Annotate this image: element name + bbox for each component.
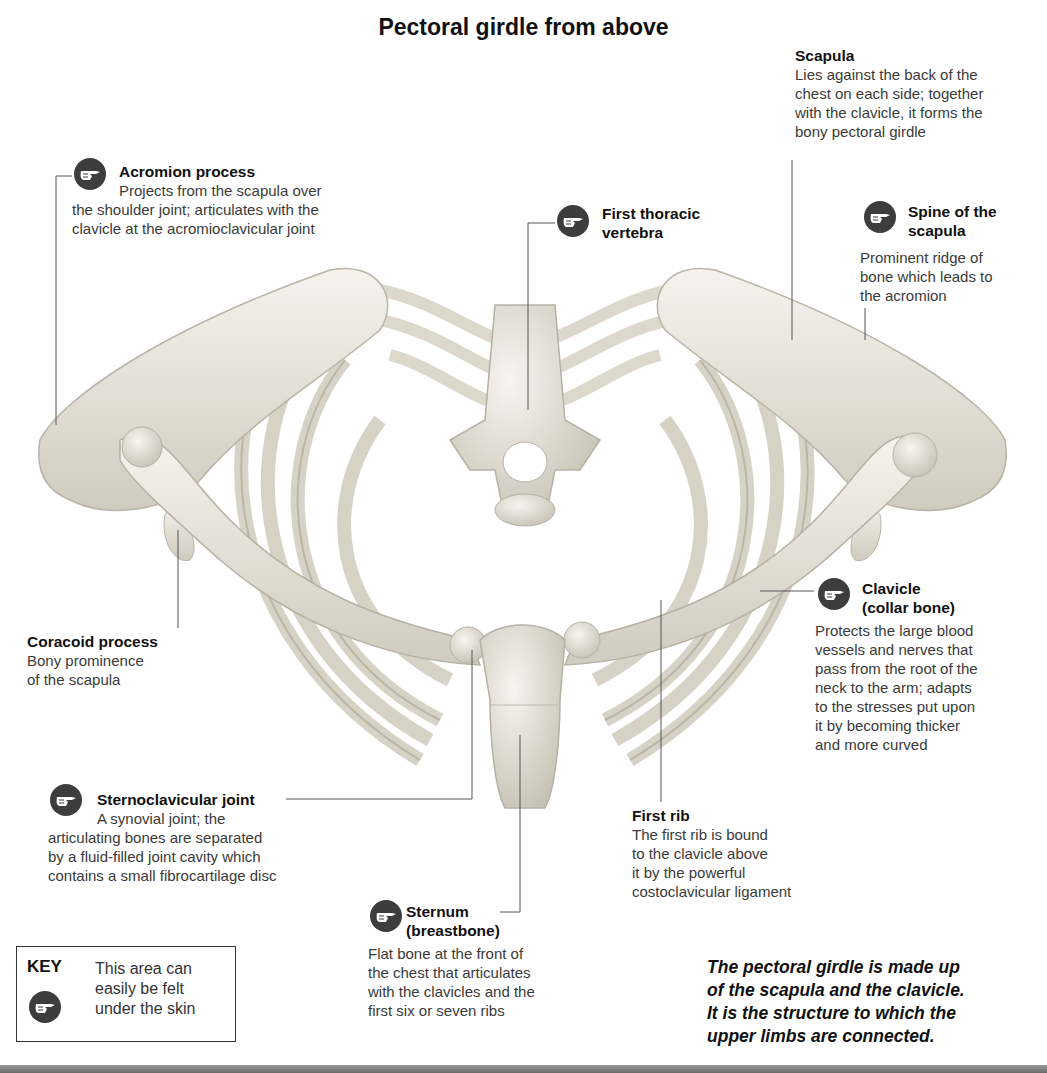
- label-desc: chest on each side; together: [795, 84, 1035, 103]
- key-text-line: This area can: [95, 959, 235, 979]
- pointing-hand-icon: [50, 784, 82, 816]
- label-sternoclavicular-desc: articulating bones are separated by a fl…: [48, 828, 348, 885]
- label-sternum: Sternum (breastbone): [406, 902, 526, 940]
- label-heading: Sternum: [406, 902, 526, 921]
- label-heading: Spine of the: [908, 202, 1038, 221]
- label-desc: Flat bone at the front of: [368, 944, 588, 963]
- label-desc: vessels and nerves that: [815, 640, 1040, 659]
- pointing-hand-icon: [29, 991, 61, 1023]
- label-heading: Scapula: [795, 46, 1035, 65]
- label-heading: Sternoclavicular joint: [97, 790, 297, 809]
- label-heading: Coracoid process: [27, 632, 227, 651]
- label-first-thoracic-vertebra: First thoracic vertebra: [602, 204, 742, 242]
- label-desc: contains a small fibrocartilage disc: [48, 866, 348, 885]
- label-heading: (breastbone): [406, 921, 526, 940]
- label-desc: and more curved: [815, 735, 1040, 754]
- key-text-line: easily be felt: [95, 979, 235, 999]
- label-heading: First rib: [632, 806, 872, 825]
- label-desc: Prominent ridge of: [860, 248, 1040, 267]
- summary-text: The pectoral girdle is made up of the sc…: [707, 956, 1037, 1048]
- summary-line: It is the structure to which the: [707, 1002, 1037, 1025]
- label-spine-of-scapula-desc: Prominent ridge of bone which leads to t…: [860, 248, 1040, 305]
- label-heading: Acromion process: [119, 162, 389, 181]
- label-heading: (collar bone): [862, 598, 1032, 617]
- label-desc: Lies against the back of the: [795, 65, 1035, 84]
- label-acromion-desc-cont: the shoulder joint; articulates with the…: [72, 200, 392, 238]
- label-desc: Projects from the scapula over: [119, 181, 389, 200]
- label-clavicle: Clavicle (collar bone): [862, 579, 1032, 617]
- key-text: This area can easily be felt under the s…: [95, 959, 235, 1019]
- key-text-line: under the skin: [95, 999, 235, 1019]
- label-desc: neck to the arm; adapts: [815, 678, 1040, 697]
- label-sternum-desc: Flat bone at the front of the chest that…: [368, 944, 588, 1020]
- label-desc: Protects the large blood: [815, 621, 1040, 640]
- label-heading: scapula: [908, 221, 1038, 240]
- label-desc: the chest that articulates: [368, 963, 588, 982]
- label-desc: clavicle at the acromioclavicular joint: [72, 219, 392, 238]
- label-heading: vertebra: [602, 223, 742, 242]
- label-desc: it by becoming thicker: [815, 716, 1040, 735]
- label-desc: A synovial joint; the: [97, 809, 297, 828]
- pointing-hand-icon: [818, 578, 850, 610]
- pointing-hand-icon: [370, 900, 402, 932]
- key-legend: KEY This area can easily be felt under t…: [16, 946, 236, 1042]
- label-coracoid-process: Coracoid process Bony prominence of the …: [27, 632, 227, 689]
- footer-bar: [0, 1065, 1047, 1073]
- label-desc: bone which leads to: [860, 267, 1040, 286]
- label-desc: the acromion: [860, 286, 1040, 305]
- summary-line: upper limbs are connected.: [707, 1025, 1037, 1048]
- label-desc: to the clavicle above: [632, 844, 872, 863]
- label-clavicle-desc: Protects the large blood vessels and ner…: [815, 621, 1040, 754]
- sternum: [480, 625, 565, 808]
- first-thoracic-vertebra: [450, 305, 600, 526]
- label-heading: First thoracic: [602, 204, 742, 223]
- label-desc: pass from the root of the: [815, 659, 1040, 678]
- label-desc: bony pectoral girdle: [795, 122, 1035, 141]
- label-desc: of the scapula: [27, 670, 227, 689]
- label-desc: to the stresses put upon: [815, 697, 1040, 716]
- label-desc: with the clavicles and the: [368, 982, 588, 1001]
- key-title: KEY: [27, 957, 62, 977]
- label-desc: by a fluid-filled joint cavity which: [48, 847, 348, 866]
- label-spine-of-scapula: Spine of the scapula: [908, 202, 1038, 240]
- summary-line: of the scapula and the clavicle.: [707, 979, 1037, 1002]
- label-desc: Bony prominence: [27, 651, 227, 670]
- label-acromion-process: Acromion process Projects from the scapu…: [119, 162, 389, 200]
- summary-line: The pectoral girdle is made up: [707, 956, 1037, 979]
- label-desc: articulating bones are separated: [48, 828, 348, 847]
- label-heading: Clavicle: [862, 579, 1032, 598]
- pointing-hand-icon: [74, 158, 106, 190]
- label-desc: the shoulder joint; articulates with the: [72, 200, 392, 219]
- label-sternoclavicular-joint: Sternoclavicular joint A synovial joint;…: [97, 790, 297, 828]
- label-desc: with the clavicle, it forms the: [795, 103, 1035, 122]
- label-desc: costoclavicular ligament: [632, 882, 872, 901]
- label-desc: The first rib is bound: [632, 825, 872, 844]
- label-desc: first six or seven ribs: [368, 1001, 588, 1020]
- pointing-hand-icon: [864, 201, 896, 233]
- pointing-hand-icon: [557, 205, 589, 237]
- label-first-rib: First rib The first rib is bound to the …: [632, 806, 872, 901]
- label-desc: it by the powerful: [632, 863, 872, 882]
- label-scapula: Scapula Lies against the back of the che…: [795, 46, 1035, 141]
